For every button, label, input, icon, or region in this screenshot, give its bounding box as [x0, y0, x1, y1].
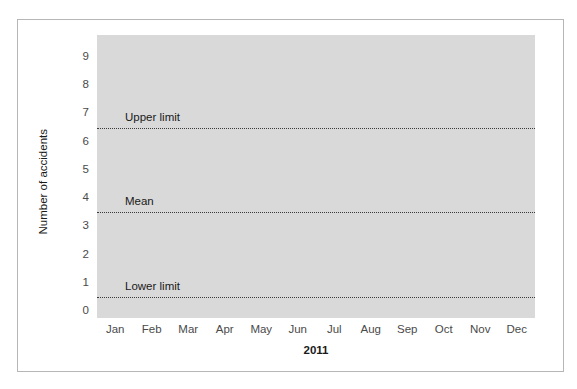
lower-limit-line [97, 297, 535, 298]
y-tick-2: 2 [59, 249, 89, 261]
mean-label: Mean [125, 196, 154, 208]
y-tick-1: 1 [59, 277, 89, 289]
y-tick-7: 7 [59, 108, 89, 120]
plot-panel: Upper limitMeanLower limit [97, 35, 535, 318]
upper-limit-label: Upper limit [125, 112, 180, 124]
y-tick-0: 0 [59, 305, 89, 317]
mean-line [97, 212, 535, 213]
lower-limit-label: Lower limit [125, 281, 180, 293]
y-tick-3: 3 [59, 221, 89, 233]
y-tick-9: 9 [59, 51, 89, 63]
y-tick-5: 5 [59, 164, 89, 176]
y-tick-4: 4 [59, 192, 89, 204]
upper-limit-line [97, 128, 535, 129]
x-axis-title: 2011 [97, 345, 535, 357]
y-tick-6: 6 [59, 136, 89, 148]
chart-figure: Upper limitMeanLower limit 0123456789 Ja… [0, 0, 577, 389]
x-tick-dec: Dec [495, 324, 539, 336]
y-tick-8: 8 [59, 79, 89, 91]
y-axis-title: Number of accidents [38, 82, 50, 282]
x-axis-tick-labels: JanFebMarAprMayJunJulAugSepOctNovDec [0, 324, 577, 340]
